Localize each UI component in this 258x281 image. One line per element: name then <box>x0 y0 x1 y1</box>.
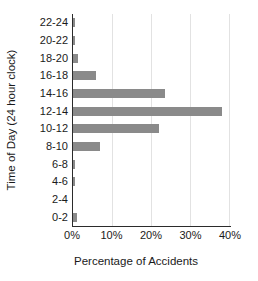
y-axis-tick-labels: 22-2420-2218-2016-1814-1612-1410-128-106… <box>22 14 72 226</box>
bar <box>73 213 77 222</box>
bar-row <box>73 49 230 67</box>
y-axis-tick-label: 18-20 <box>22 49 72 67</box>
bar-row <box>73 14 230 32</box>
bar-row <box>73 32 230 50</box>
bar <box>73 107 222 116</box>
x-axis-tick-label: 20% <box>140 229 162 241</box>
x-axis-tick-label: 40% <box>219 229 241 241</box>
bar-row <box>73 102 230 120</box>
bar <box>73 89 165 98</box>
y-axis-tick-label: 14-16 <box>22 85 72 103</box>
y-axis-tick-label: 20-22 <box>22 32 72 50</box>
x-axis-tick-label: 10% <box>100 229 122 241</box>
y-axis-tick-label: 0-2 <box>22 208 72 226</box>
bar-row <box>73 67 230 85</box>
y-axis-tick-label: 2-4 <box>22 191 72 209</box>
bar <box>73 142 100 151</box>
bar-row <box>73 120 230 138</box>
bar <box>73 124 159 133</box>
y-axis-tick-label: 12-14 <box>22 102 72 120</box>
y-axis-tick-label: 4-6 <box>22 173 72 191</box>
y-axis-tick-label: 6-8 <box>22 155 72 173</box>
plot-area <box>72 14 230 226</box>
y-axis-title: Time of Day (24 hour clock) <box>0 0 22 240</box>
y-axis-tick-label: 8-10 <box>22 138 72 156</box>
y-axis-tick-label: 10-12 <box>22 120 72 138</box>
bar-row <box>73 138 230 156</box>
bar-row <box>73 155 230 173</box>
bar <box>73 36 75 45</box>
x-axis-tick-label: 30% <box>179 229 201 241</box>
x-axis-tick-label: 0% <box>64 229 80 241</box>
x-axis-line <box>72 226 231 227</box>
x-axis-tick-labels: 0%10%20%30%40% <box>72 229 230 245</box>
y-axis-title-text: Time of Day (24 hour clock) <box>5 50 17 191</box>
bar-chart: Time of Day (24 hour clock) 22-2420-2218… <box>0 0 258 281</box>
bar <box>73 71 96 80</box>
bar <box>73 18 75 27</box>
y-axis-tick-label: 16-18 <box>22 67 72 85</box>
bar <box>73 160 75 169</box>
bar-row <box>73 173 230 191</box>
bar <box>73 54 78 63</box>
bar-row <box>73 208 230 226</box>
bar <box>73 177 75 186</box>
bar-row <box>73 85 230 103</box>
bar-row <box>73 191 230 209</box>
x-axis-title: Percentage of Accidents <box>22 255 250 267</box>
y-axis-tick-label: 22-24 <box>22 14 72 32</box>
